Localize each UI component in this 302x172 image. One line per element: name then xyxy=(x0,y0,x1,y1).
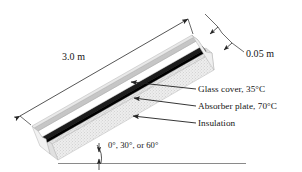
insulation-label: Insulation xyxy=(198,119,235,128)
thickness-dimension xyxy=(205,14,244,52)
figure-canvas: 3.0 m 0.05 m Glass cover, 35°C Absorber … xyxy=(0,0,302,172)
length-dimension-label: 3.0 m xyxy=(62,52,85,62)
thickness-dimension-label: 0.05 m xyxy=(246,49,274,59)
absorber-plate-label: Absorber plate, 70°C xyxy=(198,102,277,111)
leader-insulation xyxy=(133,116,196,123)
glass-cover-label: Glass cover, 35°C xyxy=(198,85,265,94)
tilt-angle-marker xyxy=(97,143,102,170)
tilt-angle-label: 0°, 30°, or 60° xyxy=(108,141,158,150)
